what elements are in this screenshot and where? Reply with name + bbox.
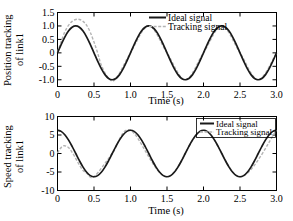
y-tick-label: 10: [45, 111, 55, 122]
y-tick-label: -1.0: [39, 74, 55, 85]
position-chart-legend: Ideal signal Tracking signal: [149, 13, 227, 32]
speed-tracking-plot: 00.51.01.52.02.53.0-10-50510 Ideal signa…: [0, 107, 293, 221]
x-tick-label: 0.5: [88, 193, 101, 204]
legend-tracking-label: Tracking signal: [168, 22, 227, 32]
x-tick-label: 2.5: [234, 89, 247, 100]
speed-tracking-panel: Speed tracking of link1 Time (s) 00.51.0…: [0, 107, 293, 221]
y-tick-label: -5: [46, 166, 54, 177]
y-tick-label: 0.5: [42, 34, 55, 45]
position-tracking-panel: Position tracking of link1 Time (s) 00.5…: [0, 0, 293, 110]
x-tick-label: 1.5: [161, 193, 174, 204]
y-tick-label: 1.5: [42, 7, 55, 18]
position-plot-ticks: [58, 13, 277, 87]
position-plot-frame: [58, 13, 277, 87]
x-tick-label: 1.0: [124, 193, 137, 204]
y-tick-label: 5: [50, 129, 55, 140]
x-tick-label: 0.5: [88, 89, 101, 100]
x-tick-label: 0: [55, 89, 60, 100]
x-tick-label: 0: [55, 193, 60, 204]
y-tick-label: 0: [50, 47, 55, 58]
x-tick-label: 3.0: [270, 89, 283, 100]
y-tick-label: -0.5: [39, 61, 55, 72]
y-tick-label: 1.0: [42, 20, 55, 31]
legend-tracking-label: Tracking signal: [216, 127, 272, 137]
y-tick-label: -10: [41, 185, 54, 196]
x-tick-label: 1.5: [161, 89, 174, 100]
position-tracking-signal-line: [58, 19, 277, 81]
x-tick-label: 2.5: [234, 193, 247, 204]
speed-chart-legend: Ideal signal Tracking signal: [197, 119, 276, 138]
x-tick-label: 2.0: [197, 193, 210, 204]
x-tick-label: 3.0: [270, 193, 283, 204]
x-tick-label: 2.0: [197, 89, 210, 100]
x-tick-label: 1.0: [124, 89, 137, 100]
y-tick-label: 0: [50, 148, 55, 159]
figure-container: Position tracking of link1 Time (s) 00.5…: [0, 0, 293, 221]
position-plot-tick-labels: 00.51.01.52.02.53.0-1.0-0.500.51.01.5: [39, 7, 283, 100]
position-tracking-plot: 00.51.01.52.02.53.0-1.0-0.500.51.01.5 Id…: [0, 0, 293, 110]
